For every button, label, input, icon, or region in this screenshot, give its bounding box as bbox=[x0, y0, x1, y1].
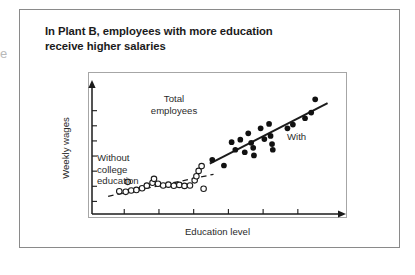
data-point-with-college bbox=[237, 137, 243, 143]
data-point-without-college bbox=[194, 173, 200, 179]
data-point-with-college bbox=[245, 131, 251, 137]
data-point-without-college bbox=[117, 189, 123, 195]
data-point-with-college bbox=[258, 125, 264, 131]
data-point-with-college bbox=[209, 157, 215, 163]
data-point-with-college bbox=[270, 147, 276, 153]
annotation-without-line-1: Without bbox=[97, 152, 130, 163]
annotation-total-employees-line-2: employees bbox=[151, 105, 197, 116]
scatter-plot-canvas bbox=[88, 72, 347, 218]
data-point-without-college bbox=[123, 189, 129, 195]
data-point-with-college bbox=[268, 133, 274, 139]
data-point-with-college bbox=[302, 115, 308, 121]
data-point-with-college bbox=[251, 153, 257, 159]
annotation-without-line-3: education bbox=[97, 175, 139, 186]
data-point-with-college bbox=[221, 163, 227, 169]
chart-title: In Plant B, employees with more educatio… bbox=[45, 24, 345, 53]
figure-root: e In Plant B, employees with more educat… bbox=[0, 0, 415, 275]
axes-layer bbox=[88, 80, 346, 218]
data-point-with-college bbox=[290, 122, 296, 128]
data-point-without-college bbox=[187, 183, 193, 189]
x-axis-title-text: Education level bbox=[185, 226, 250, 237]
data-point-without-college bbox=[134, 187, 140, 193]
x-axis-title: Education level bbox=[88, 226, 347, 237]
data-point-with-college bbox=[232, 147, 238, 153]
annotation-with-college-education: With bbox=[287, 131, 306, 143]
annotation-total-employees: Total employees bbox=[144, 93, 204, 116]
data-point-without-college bbox=[151, 176, 157, 182]
data-point-with-college bbox=[229, 139, 235, 145]
data-point-without-college bbox=[177, 182, 183, 188]
data-point-without-college bbox=[166, 182, 172, 188]
data-point-with-college bbox=[312, 96, 318, 102]
y-axis-arrowhead bbox=[88, 80, 95, 88]
annotation-with-text: With bbox=[287, 131, 306, 142]
data-point-without-college bbox=[128, 188, 134, 194]
page-edge-text-fragment: e bbox=[0, 44, 12, 64]
data-point-without-college bbox=[144, 183, 150, 189]
data-point-without-college bbox=[171, 183, 177, 189]
data-point-without-college bbox=[182, 183, 188, 189]
data-point-with-college bbox=[308, 110, 314, 116]
data-point-with-college bbox=[248, 140, 254, 146]
data-point-with-college bbox=[266, 121, 272, 127]
data-point-without-college bbox=[160, 183, 166, 189]
data-point-without-college bbox=[201, 186, 207, 192]
y-axis-title-text: Weekly wages bbox=[60, 117, 71, 179]
data-point-with-college bbox=[269, 141, 275, 147]
x-axis-arrowhead bbox=[338, 210, 346, 217]
annotation-total-employees-line-1: Total bbox=[164, 93, 184, 104]
data-point-with-college bbox=[242, 149, 248, 155]
data-point-with-college bbox=[250, 145, 256, 151]
data-point-without-college bbox=[199, 163, 205, 169]
annotation-without-college-education: Without college education bbox=[97, 152, 139, 187]
chart-title-line-2: receive higher salaries bbox=[45, 39, 345, 54]
trendlines-layer bbox=[108, 103, 327, 196]
data-point-with-college bbox=[262, 136, 268, 142]
chart-title-line-1: In Plant B, employees with more educatio… bbox=[45, 24, 345, 39]
annotation-without-line-2: college bbox=[97, 164, 127, 175]
